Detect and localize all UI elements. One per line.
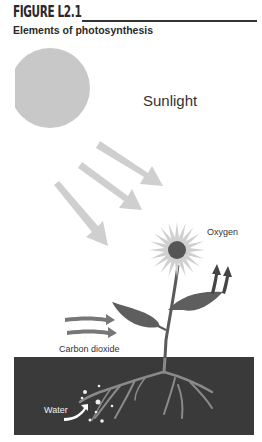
sunlight-rays-icon	[54, 141, 163, 246]
stem	[165, 265, 178, 358]
flower-icon	[149, 222, 205, 278]
oxygen-label: Oxygen	[207, 227, 238, 237]
co2-arrows-icon	[65, 314, 117, 338]
oxygen-arrows-icon	[211, 264, 232, 294]
sunlight-label: Sunlight	[143, 92, 197, 109]
sun-icon	[10, 48, 90, 128]
photosynthesis-diagram	[0, 0, 262, 442]
carbon-dioxide-label: Carbon dioxide	[59, 344, 120, 354]
water-label: Water	[44, 405, 68, 415]
soil	[14, 357, 254, 435]
